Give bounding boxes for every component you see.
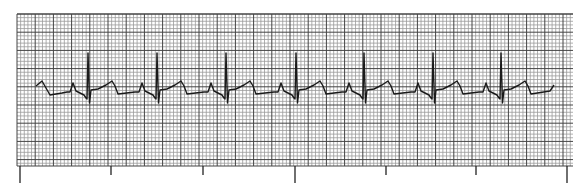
ecg-strip [0,0,582,193]
time-tick-marks [20,166,567,183]
ecg-trace [36,53,554,103]
